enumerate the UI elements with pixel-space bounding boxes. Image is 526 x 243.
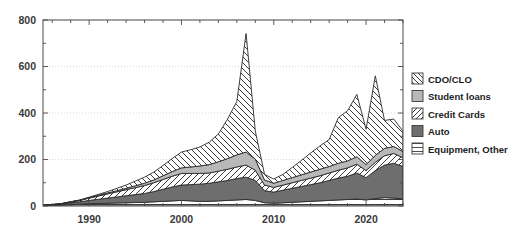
legend-swatch-solid-light (412, 91, 423, 102)
y-axis-tick-label: 800 (18, 14, 36, 26)
legend-label: Student loans (428, 91, 491, 102)
y-axis-tick-label: 400 (18, 107, 36, 119)
x-axis-tick-label: 2000 (170, 213, 194, 225)
legend-label: Auto (428, 126, 450, 137)
y-axis-tick-label: 0 (30, 200, 36, 212)
legend-label: Credit Cards (428, 109, 485, 120)
legend-swatch-diagonal-back (412, 73, 423, 84)
x-axis-tick-label: 2020 (354, 213, 378, 225)
y-axis-tick-label: 600 (18, 60, 36, 72)
chart-legend: CDO/CLOStudent loansCredit CardsAutoEqui… (412, 73, 508, 155)
legend-swatch-horizontal-lines (412, 143, 423, 154)
legend-label: CDO/CLO (428, 74, 472, 85)
y-axis-labels: 0200400600800 (18, 14, 36, 212)
area-series-group (43, 33, 403, 206)
legend-label: Equipment, Other (428, 144, 508, 155)
legend-swatch-diagonal-forward (412, 108, 423, 119)
stacked-area-chart: 0200400600800 1990200020102020 CDO/CLOSt… (0, 0, 526, 243)
x-axis-tick-label: 2010 (262, 213, 286, 225)
x-axis-tick-label: 1990 (77, 213, 101, 225)
x-axis-labels: 1990200020102020 (77, 213, 377, 225)
y-axis-tick-label: 200 (18, 153, 36, 165)
legend-swatch-solid-dark (412, 126, 423, 137)
chart-canvas: 0200400600800 1990200020102020 CDO/CLOSt… (0, 0, 526, 243)
